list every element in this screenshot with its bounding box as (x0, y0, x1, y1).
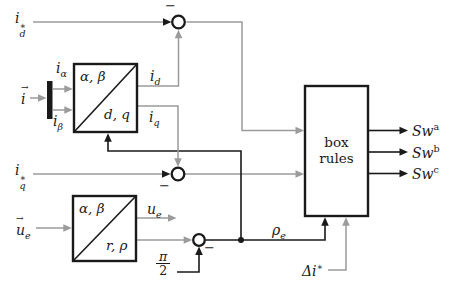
label-sw-c: Swc (412, 165, 439, 181)
arrowhead-id-ref (163, 18, 172, 26)
arrowhead-u-e (168, 214, 177, 222)
label-iq-ref: i∗q (15, 163, 26, 190)
label-u-e: ue (147, 202, 162, 220)
arrowhead-i-beta (64, 106, 73, 114)
arrowhead-rho-to-sum (184, 236, 193, 244)
vector-arrow-icon: → (16, 214, 24, 223)
dq-block-top-label: α, β (80, 70, 106, 84)
box-rules-label: boxrules (305, 134, 368, 166)
arrowhead-top-sum-to-box (296, 127, 305, 135)
diagram-wires-canvas (0, 0, 454, 301)
arrowhead-angle-feedback (104, 133, 112, 142)
arrowhead-i-alpha (64, 85, 73, 93)
label-delta-i-ref: Δi∗ (302, 262, 323, 278)
arrowhead-rho-e (321, 217, 329, 226)
arrowhead-sw-c (400, 170, 409, 178)
label-sw-a: Swa (412, 122, 439, 138)
label-i-d: id (150, 69, 161, 87)
sum-junction-iq (172, 168, 185, 181)
wire-top-sum-to-box (187, 22, 297, 131)
label-i-q: iq (149, 110, 160, 128)
wire-rho-e-to-box (206, 224, 326, 240)
arrowhead-i-q (174, 158, 182, 167)
arrowhead-sw-b (400, 148, 409, 156)
vector-arrow-icon: → (21, 83, 29, 92)
wire-delta-i-ref (328, 224, 346, 270)
polar-block-bottom-label: r, ρ (106, 239, 128, 253)
current-measurement-bus-bar (47, 81, 53, 119)
junction-dot-rho-e (238, 237, 244, 243)
arrowhead-pi-half (195, 247, 203, 256)
minus-sign-mid-sum: − (159, 179, 170, 192)
label-rho-e: ρe (272, 223, 286, 241)
control-block-diagram: i∗d iα →i iβ α, β d, q id iq i∗q α, β r,… (0, 0, 454, 301)
arrowhead-iq-ref (162, 170, 171, 178)
label-vec-ue: →ue (16, 223, 31, 241)
arrowhead-vec-i (38, 94, 47, 102)
arrowhead-sw-a (400, 127, 409, 135)
label-id-ref: i∗d (15, 11, 26, 38)
label-sw-b: Swb (412, 144, 440, 160)
label-i-beta: iβ (53, 114, 63, 132)
label-vec-i: →i (21, 92, 25, 106)
arrowhead-vec-ue (63, 224, 72, 232)
minus-sign-top-sum: − (165, 0, 176, 12)
label-i-alpha: iα (56, 61, 67, 79)
arrowhead-delta-i-ref (342, 217, 350, 226)
sum-junction-id (172, 16, 185, 29)
label-pi-half: π2 (156, 250, 170, 277)
dq-block-bottom-label: d, q (104, 108, 130, 122)
polar-block-top-label: α, β (79, 202, 105, 216)
minus-sign-bottom-sum: − (204, 241, 215, 254)
arrowhead-i-d (175, 30, 183, 39)
arrowhead-mid-sum-to-box (296, 170, 305, 178)
